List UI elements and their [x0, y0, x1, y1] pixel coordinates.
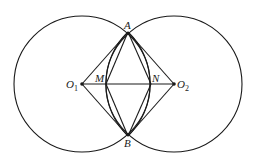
label-B: B [124, 137, 131, 149]
segment-O1B [82, 84, 128, 136]
segment-AN [128, 32, 151, 84]
segment-NB [128, 84, 151, 136]
label-O2-sub: 2 [185, 84, 189, 93]
point-O1 [80, 82, 84, 86]
label-M: M [94, 72, 105, 84]
label-O2: O [177, 78, 185, 90]
label-N: N [151, 72, 160, 84]
label-O1-sub: 1 [74, 84, 78, 93]
segment-O2A [128, 32, 174, 84]
segment-MB [106, 84, 128, 136]
label-A: A [123, 19, 131, 31]
label-O1: O [66, 78, 74, 90]
segment-O2B [128, 84, 174, 136]
point-O2 [172, 82, 176, 86]
geometry-diagram: A B M N O 1 O 2 [0, 0, 253, 165]
segment-O1A [82, 32, 128, 84]
segment-AM [106, 32, 128, 84]
